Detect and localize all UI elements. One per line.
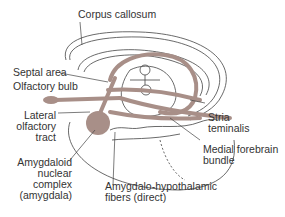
label-line: teminalis	[208, 123, 249, 134]
label-septal-area: Septal area	[13, 67, 67, 78]
label-stria-terminalis: Stria teminalis	[208, 112, 249, 134]
label-line: tract	[10, 132, 56, 143]
label-corpus-callosum: Corpus callosum	[78, 9, 156, 20]
label-medial-forebrain-bundle: Medial forebrain bundle	[203, 144, 278, 166]
label-amygdalo-hypothalamic: Amygdalo-hypothalamic fibers (direct)	[105, 181, 217, 203]
label-amygdaloid: Amygdaloid nuclear complex (amygdala)	[10, 157, 72, 201]
label-lateral-olfactory-tract: Lateral olfactory tract	[10, 110, 56, 143]
label-olfactory-bulb: Olfactory bulb	[13, 81, 78, 92]
label-line: bundle	[203, 155, 278, 166]
label-line: (amygdala)	[10, 190, 72, 201]
label-line: fibers (direct)	[105, 192, 217, 203]
